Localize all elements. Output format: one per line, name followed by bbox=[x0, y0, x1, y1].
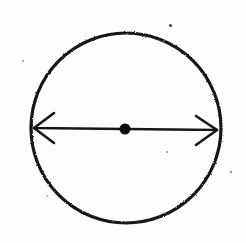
circle-diameter-figure bbox=[0, 0, 246, 243]
center-dot bbox=[120, 124, 131, 135]
figure-canvas bbox=[0, 0, 246, 243]
background bbox=[0, 0, 246, 243]
